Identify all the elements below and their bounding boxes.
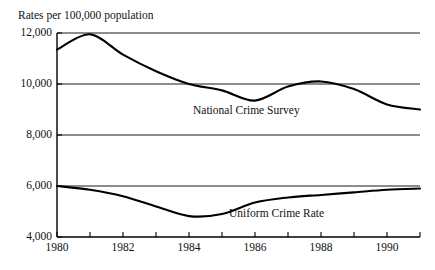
crime-rate-line-chart: Rates per 100,000 population 4,0006,0008… bbox=[0, 0, 435, 270]
y-tick-label-6000: 6,000 bbox=[0, 179, 52, 191]
x-tick-label-1990: 1990 bbox=[362, 241, 412, 253]
y-tick-label-8000: 8,000 bbox=[0, 128, 52, 140]
plot-area bbox=[0, 0, 435, 270]
x-tick-label-1984: 1984 bbox=[164, 241, 214, 253]
y-tick-label-10000: 10,000 bbox=[0, 77, 52, 89]
data-series bbox=[57, 34, 420, 216]
series-label-2: Uniform Crime Rate bbox=[229, 207, 324, 219]
x-tick-label-1988: 1988 bbox=[296, 241, 346, 253]
x-tick-label-1982: 1982 bbox=[98, 241, 148, 253]
x-tick-label-1980: 1980 bbox=[32, 241, 82, 253]
y-tick-label-12000: 12,000 bbox=[0, 26, 52, 38]
x-tick-label-1986: 1986 bbox=[230, 241, 280, 253]
series-line-1 bbox=[57, 34, 420, 109]
series-label-1: National Crime Survey bbox=[193, 104, 300, 116]
